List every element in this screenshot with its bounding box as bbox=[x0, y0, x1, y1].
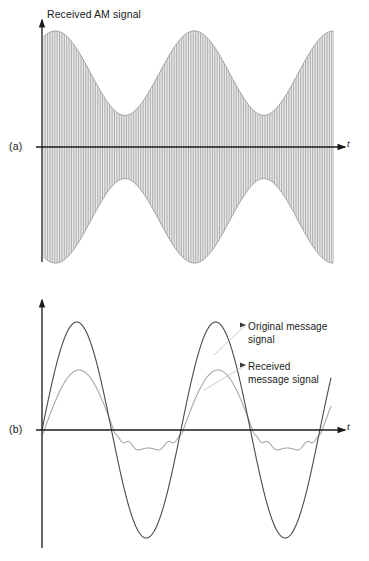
panel-b-vertical-axis bbox=[39, 299, 45, 549]
panel-a-time-axis bbox=[36, 144, 347, 150]
annotation-original-message-signal: Original message signal bbox=[248, 320, 327, 346]
panel-b-time-axis-label: t bbox=[347, 421, 350, 432]
am-signal-plot bbox=[0, 0, 369, 280]
panel-b-label: (b) bbox=[9, 423, 22, 435]
leader-received-message-signal bbox=[204, 362, 246, 390]
leader-original-message-signal bbox=[214, 322, 246, 355]
panel-a bbox=[0, 0, 369, 280]
panel-a-label: (a) bbox=[9, 140, 22, 152]
figure-am-envelope-detection: (a) Received AM signal t (b) t Original … bbox=[0, 0, 369, 561]
annotation-received-message-signal: Received message signal bbox=[248, 360, 319, 386]
panel-a-time-axis-label: t bbox=[347, 138, 350, 149]
panel-b-time-axis bbox=[36, 427, 347, 433]
panel-a-axis-title: Received AM signal bbox=[47, 8, 141, 20]
